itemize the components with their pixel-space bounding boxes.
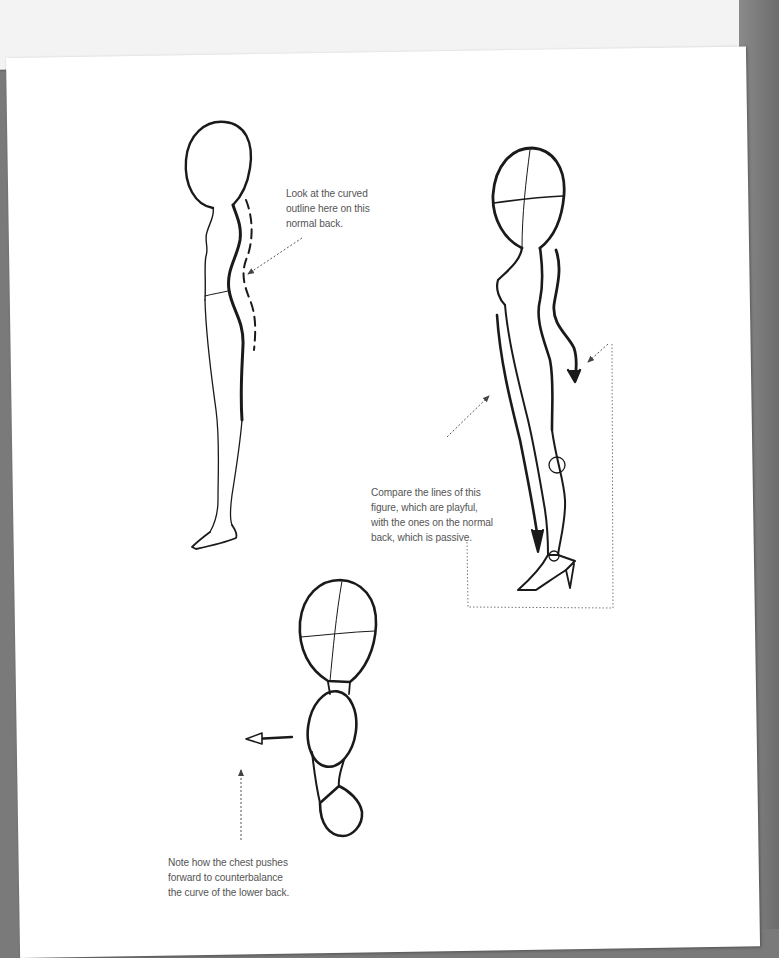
pointer-arrow	[588, 344, 608, 362]
caption-chest-pushes: Note how the chest pushes forward to cou…	[168, 855, 289, 900]
chest-torso-figure	[246, 580, 376, 836]
playful-figure	[493, 148, 580, 590]
pointer-arrow	[447, 396, 489, 437]
caption-normal-back: Look at the curved outline here on this …	[286, 186, 370, 231]
pointer-arrow	[248, 238, 302, 274]
normal-back-figure	[186, 122, 255, 549]
caption-compare-lines: Compare the lines of this figure, which …	[371, 485, 493, 545]
